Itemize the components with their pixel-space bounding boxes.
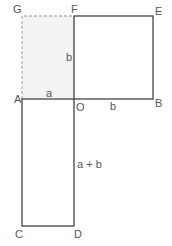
geometry-diagram: G F E A O B C D b a b a + b <box>0 0 172 246</box>
point-label-G: G <box>13 3 22 15</box>
segment-label-OD: a + b <box>77 158 102 170</box>
segment-label-AO: a <box>46 87 53 99</box>
point-label-A: A <box>14 93 22 105</box>
point-label-O: O <box>76 101 85 113</box>
point-label-F: F <box>71 3 78 15</box>
rectangle-AODC <box>22 99 74 226</box>
point-label-D: D <box>74 228 82 240</box>
point-label-B: B <box>155 97 162 109</box>
point-label-E: E <box>155 5 162 17</box>
point-label-C: C <box>15 228 23 240</box>
square-OBEF <box>74 16 153 99</box>
segment-label-OB: b <box>110 100 116 112</box>
segment-label-FO: b <box>66 51 72 63</box>
